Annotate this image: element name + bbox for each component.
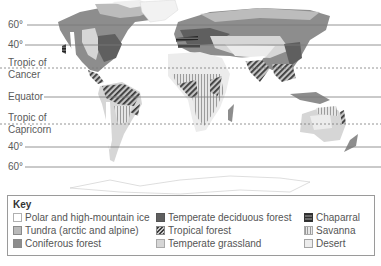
polar-swatch-icon (13, 213, 22, 222)
australia (300, 106, 346, 142)
key-label: Tropical forest (168, 225, 231, 236)
key-item-grassland: Temperate grassland (156, 238, 261, 249)
label-tropic-cancer-2: Cancer (8, 70, 40, 80)
key-label: Chaparral (316, 212, 360, 223)
key-item-chaparral: Chaparral (304, 212, 360, 223)
africa (168, 52, 234, 132)
south-america (98, 82, 142, 162)
key-item-polar: Polar and high-mountain ice (13, 212, 150, 223)
label-tropic-capricorn-1: Tropic of (8, 113, 47, 123)
key-item-coniferous: Coniferous forest (13, 238, 101, 249)
key-label: Polar and high-mountain ice (25, 212, 150, 223)
key-item-desert: Desert (304, 238, 345, 249)
key-item-savanna: Savanna (304, 225, 355, 236)
grassland-swatch-icon (156, 239, 165, 248)
desert-swatch-icon (304, 239, 313, 248)
chaparral-swatch-icon (304, 213, 313, 222)
world-biome-map (0, 0, 381, 195)
label-60n: 60° (8, 20, 23, 30)
deciduous-swatch-icon (156, 213, 165, 222)
antarctica-outline (70, 176, 310, 194)
label-60s: 60° (8, 162, 23, 172)
key-item-tropical: Tropical forest (156, 225, 231, 236)
key-label: Temperate deciduous forest (168, 212, 291, 223)
tundra-swatch-icon (13, 226, 22, 235)
savanna-swatch-icon (304, 226, 313, 235)
key-label: Coniferous forest (25, 238, 101, 249)
label-tropic-capricorn-2: Capricorn (8, 125, 51, 135)
key-label: Desert (316, 238, 345, 249)
southeast-asia-islands (290, 92, 330, 104)
label-40s: 40° (8, 142, 23, 152)
map-key: Key Polar and high-mountain ice Tundra (… (7, 195, 375, 256)
key-item-tundra: Tundra (arctic and alpine) (13, 225, 139, 236)
key-title: Key (13, 199, 31, 210)
key-item-deciduous: Temperate deciduous forest (156, 212, 291, 223)
coniferous-swatch-icon (13, 239, 22, 248)
label-equator: Equator (8, 92, 43, 102)
key-label: Temperate grassland (168, 238, 261, 249)
tropical-swatch-icon (156, 226, 165, 235)
label-tropic-cancer-1: Tropic of (8, 58, 47, 68)
label-40n: 40° (8, 40, 23, 50)
key-label: Tundra (arctic and alpine) (25, 225, 139, 236)
new-zealand (344, 134, 358, 152)
key-label: Savanna (316, 225, 355, 236)
